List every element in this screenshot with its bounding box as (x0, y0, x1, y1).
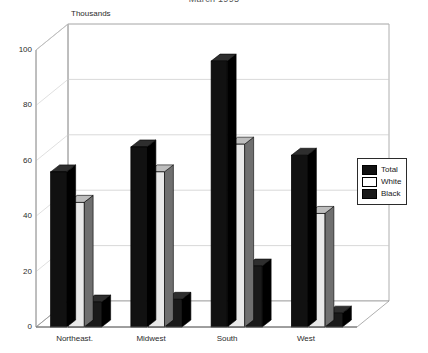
x-axis-tick-label: South (217, 334, 238, 343)
chart-legend: Total White Black (357, 158, 407, 205)
y-axis-tick-label: 60 (2, 156, 32, 165)
black-swatch-icon (362, 189, 377, 199)
legend-item-total: Total (362, 164, 401, 175)
white-swatch-icon (362, 177, 377, 187)
y-axis-tick-label: 100 (2, 45, 32, 54)
legend-item-white: White (362, 176, 401, 187)
gridline-connector (36, 79, 68, 105)
legend-label: Black (381, 189, 401, 198)
y-axis-tick-labels: 020406080100 (0, 0, 32, 353)
y-axis-tick-label: 80 (2, 100, 32, 109)
y-axis-tick-label: 20 (2, 267, 32, 276)
bar (51, 165, 76, 327)
bar (131, 140, 156, 327)
bar-chart: March 1995 Thousands 020406080100 Northe… (0, 0, 428, 353)
x-axis-tick-label: Northeast. (56, 334, 93, 343)
gridline-connector (36, 24, 68, 50)
legend-label: White (381, 177, 401, 186)
x-axis-tick-label: Midwest (136, 334, 165, 343)
bar (211, 54, 236, 327)
gridline-connector (36, 135, 68, 161)
legend-item-black: Black (362, 188, 401, 199)
y-axis-tick-label: 0 (2, 322, 32, 331)
x-axis-tick-label: West (297, 334, 315, 343)
bar (291, 148, 316, 327)
black-swatch-icon (362, 165, 377, 175)
legend-label: Total (381, 165, 398, 174)
y-axis-tick-label: 40 (2, 211, 32, 220)
